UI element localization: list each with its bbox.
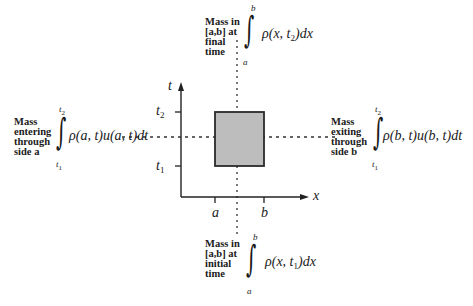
a-tick-label: a (212, 205, 219, 221)
exiting-mass-integrand: ρ(b, t)u(b, t)dt (383, 128, 462, 144)
final-mass-label: Mass in [a,b] at final time (205, 17, 240, 57)
initial-mass-label: Mass in [a,b] at initial time (205, 239, 240, 279)
t1-tick-label: t1 (156, 158, 164, 175)
entering-mass-lower-limit: t1 (56, 159, 62, 172)
initial-mass-lower-limit: a (247, 286, 252, 296)
integral-sign-icon: ∫ (246, 241, 256, 277)
integral-sign-icon: ∫ (373, 114, 383, 150)
exiting-mass-label: Mass exiting through side b (331, 117, 367, 157)
exiting-mass-lower-limit: t1 (372, 159, 378, 172)
integral-sign-icon: ∫ (244, 12, 254, 48)
b-tick-label: b (261, 205, 268, 221)
integral-sign-icon: ∫ (56, 114, 66, 150)
entering-mass-integrand: ρ(a, t)u(a, t)dt (69, 128, 148, 144)
final-mass-lower-limit: a (243, 57, 248, 67)
t2-tick-label: t2 (156, 103, 164, 120)
entering-mass-label: Mass entering through side a (14, 117, 51, 157)
initial-mass-integrand: ρ(x, t1)dx (265, 254, 316, 271)
final-mass-integrand: ρ(x, t2)dx (262, 26, 313, 43)
t-axis-arrow-icon (178, 82, 184, 91)
x-axis-label: x (313, 188, 319, 204)
x-axis-arrow-icon (300, 194, 309, 200)
shaded-region (215, 112, 264, 166)
t-axis-label: t (168, 78, 172, 94)
